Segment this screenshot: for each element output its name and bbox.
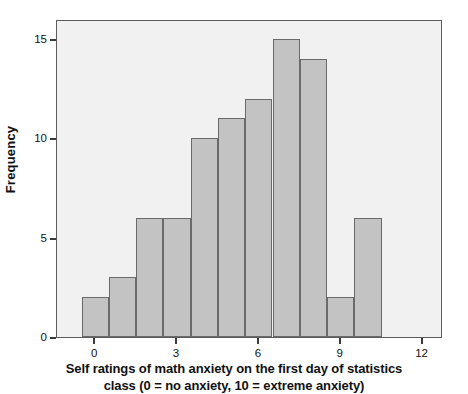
histogram-bar xyxy=(82,297,109,337)
x-axis-tick-mark xyxy=(257,338,259,344)
y-axis-ticks: 051015 xyxy=(0,20,56,338)
x-axis-tick-mark xyxy=(339,338,341,344)
x-axis-title: Self ratings of math anxiety on the firs… xyxy=(20,360,448,394)
histogram-bar xyxy=(109,277,136,337)
x-axis-title-line-1: Self ratings of math anxiety on the firs… xyxy=(20,360,448,377)
x-axis-tick-label: 0 xyxy=(80,346,108,360)
y-axis-tick-label: 0 xyxy=(41,330,47,345)
y-axis-tick-label: 10 xyxy=(34,131,47,146)
y-axis-tick-label: 5 xyxy=(41,231,47,246)
histogram-bar xyxy=(163,218,190,337)
x-axis-tick-mark xyxy=(93,338,95,344)
x-axis-tick-mark xyxy=(175,338,177,344)
histogram-bar xyxy=(218,118,245,337)
y-axis-tick-label: 15 xyxy=(34,32,47,47)
bars-layer xyxy=(57,21,441,337)
x-axis-tick-mark xyxy=(421,338,423,344)
plot-area xyxy=(56,20,442,338)
x-axis-title-line-2: class (0 = no anxiety, 10 = extreme anxi… xyxy=(20,377,448,394)
histogram-bar xyxy=(273,39,300,337)
x-axis-tick-label: 12 xyxy=(408,346,436,360)
histogram-bar xyxy=(354,218,381,337)
histogram-bar xyxy=(191,138,218,337)
histogram-bar xyxy=(136,218,163,337)
histogram-bar xyxy=(245,99,272,338)
x-axis-tick-label: 9 xyxy=(326,346,354,360)
histogram-bar xyxy=(327,297,354,337)
x-axis-tick-label: 3 xyxy=(162,346,190,360)
histogram-bar xyxy=(300,59,327,337)
x-axis-tick-label: 6 xyxy=(244,346,272,360)
